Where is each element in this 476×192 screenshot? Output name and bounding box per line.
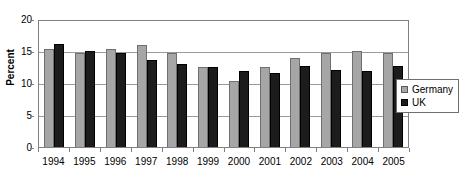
bar-germany-2000 (229, 81, 239, 147)
x-tick-label-1995: 1995 (69, 155, 100, 171)
bar-group (70, 21, 101, 147)
bar-uk-1998 (177, 64, 187, 147)
plot-area (38, 20, 409, 148)
bar-group (224, 21, 255, 147)
x-tick-mark (316, 148, 317, 152)
x-tick-label-2002: 2002 (285, 155, 316, 171)
bar-uk-1995 (85, 51, 95, 147)
x-tick-mark (224, 148, 225, 152)
y-tick-label-10: 10 (10, 79, 32, 89)
y-tick-label-0: 0 (10, 143, 32, 153)
bar-germany-1999 (198, 67, 208, 147)
x-tick-mark (347, 148, 348, 152)
bar-germany-1994 (44, 49, 54, 147)
x-tick-mark (409, 148, 410, 152)
x-axis-tick-marks (38, 148, 409, 153)
x-tick-label-1999: 1999 (193, 155, 224, 171)
bar-group (316, 21, 347, 147)
x-tick-mark (100, 148, 101, 152)
x-tick-mark (131, 148, 132, 152)
y-tick-mark-20 (30, 20, 34, 21)
bar-group (193, 21, 224, 147)
x-tick-label-1996: 1996 (100, 155, 131, 171)
y-tick-mark-5 (30, 116, 34, 117)
x-tick-mark (254, 148, 255, 152)
y-axis-tick-labels: 20 15 10 5 0 (6, 0, 32, 192)
bar-groups (39, 21, 408, 147)
x-tick-label-2004: 2004 (347, 155, 378, 171)
bar-germany-2001 (260, 67, 270, 147)
bar-uk-1994 (54, 44, 64, 147)
x-tick-mark (285, 148, 286, 152)
plot-inner (39, 21, 408, 147)
x-tick-label-1997: 1997 (131, 155, 162, 171)
legend-swatch-germany-icon (401, 86, 408, 93)
x-tick-label-2005: 2005 (378, 155, 409, 171)
x-axis-tick-labels: 1994199519961997199819992000200120022003… (38, 155, 409, 171)
legend-label-germany: Germany (412, 84, 453, 95)
grouped-bar-chart: Percent 20 15 10 5 0 1994199519961997199… (0, 0, 476, 192)
x-tick-mark (69, 148, 70, 152)
bar-group (39, 21, 70, 147)
chart-legend: Germany UK (396, 79, 459, 113)
bar-uk-1999 (208, 67, 218, 147)
bar-germany-1997 (137, 45, 147, 147)
bar-germany-1996 (106, 49, 116, 147)
y-tick-label-20: 20 (10, 15, 32, 25)
bar-uk-2003 (331, 70, 341, 147)
x-tick-mark (193, 148, 194, 152)
bar-group (285, 21, 316, 147)
x-tick-mark (38, 148, 39, 152)
bar-germany-2003 (321, 53, 331, 148)
x-tick-label-2001: 2001 (254, 155, 285, 171)
bar-uk-1996 (116, 53, 126, 148)
bar-germany-1998 (167, 53, 177, 148)
x-tick-label-1998: 1998 (162, 155, 193, 171)
x-tick-label-1994: 1994 (38, 155, 69, 171)
y-tick-mark-0 (30, 148, 34, 149)
y-tick-mark-15 (30, 52, 34, 53)
y-tick-mark-10 (30, 84, 34, 85)
bar-germany-1995 (75, 53, 85, 148)
bar-uk-2001 (270, 73, 280, 147)
y-tick-label-5: 5 (10, 111, 32, 121)
bar-uk-1997 (147, 60, 157, 147)
bar-uk-2004 (362, 71, 372, 147)
bar-uk-2002 (300, 66, 310, 147)
y-tick-label-15: 15 (10, 47, 32, 57)
legend-item-uk: UK (401, 96, 453, 109)
bar-group (162, 21, 193, 147)
x-tick-label-2003: 2003 (316, 155, 347, 171)
legend-label-uk: UK (412, 97, 426, 108)
bar-group (131, 21, 162, 147)
legend-item-germany: Germany (401, 83, 453, 96)
bar-germany-2004 (352, 51, 362, 147)
x-tick-label-2000: 2000 (224, 155, 255, 171)
bar-germany-2005 (383, 53, 393, 148)
legend-swatch-uk-icon (401, 99, 408, 106)
bar-group (254, 21, 285, 147)
bar-uk-2000 (239, 71, 249, 147)
bar-group (347, 21, 378, 147)
bar-germany-2002 (290, 58, 300, 147)
bar-group (101, 21, 132, 147)
x-tick-mark (378, 148, 379, 152)
x-tick-mark (162, 148, 163, 152)
